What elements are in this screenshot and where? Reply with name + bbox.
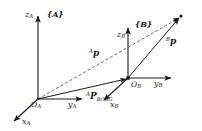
vector-a-p-borg [38,79,126,99]
axis-label-z-b: zB [117,31,125,40]
origin-a-dot [37,98,39,100]
frame-label-a: {A} [47,10,64,18]
origin-label-b: OB [131,81,141,90]
frame-transformation-figure: zA {A} OA yA xA zB {B} OB yB xB Ap Bp AP… [0,0,202,131]
vector-label-a-p: Ap [89,49,99,58]
axis-label-z-a: zA [25,11,33,20]
axis-label-y-a: yA [68,101,77,110]
axis-label-x-a: xA [22,118,31,127]
point-p [179,14,182,17]
frame-label-b: {B} [135,20,152,28]
diagram-canvas [0,0,202,131]
axis-label-y-b: yB [154,80,163,89]
vector-label-b-p: Bp [166,37,176,46]
origin-b-dot [126,76,129,79]
vector-label-a-p-borg: APBORG [86,92,112,102]
axis-label-x-b: xB [110,101,119,110]
origin-label-a: OA [31,101,41,110]
